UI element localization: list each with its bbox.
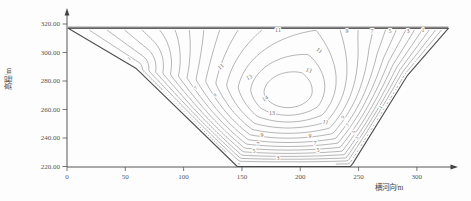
contour-label: 5	[253, 148, 256, 154]
y-tick-label: 260.00	[41, 106, 61, 114]
y-tick-label: 280.00	[41, 77, 61, 85]
x-tick-label: 300	[412, 173, 423, 181]
x-tick-label: 200	[295, 173, 306, 181]
contour-label: 3	[277, 155, 280, 161]
x-tick-label: 50	[122, 173, 130, 181]
contour-label: 7	[371, 28, 374, 34]
contour-label: 7	[314, 140, 317, 146]
contour-label: 3	[407, 28, 410, 34]
contour-figure: 050100150200250300320.00300.00280.00260.…	[0, 0, 471, 201]
contour-label: 9	[261, 132, 264, 138]
x-tick-label: 100	[178, 173, 189, 181]
x-tick-label: 250	[353, 173, 364, 181]
contour-label: 11	[322, 119, 329, 126]
contour-label: 9	[309, 133, 312, 139]
x-tick-label: 150	[237, 173, 248, 181]
y-axis-title: 高程/m	[3, 68, 13, 90]
contour-label: 9	[346, 28, 349, 34]
contour-label: 7	[257, 141, 260, 147]
y-tick-label: 320.00	[41, 20, 61, 28]
contour-label: 1	[422, 27, 425, 33]
contour-label: 5	[389, 28, 392, 34]
y-tick-label: 240.00	[41, 134, 61, 142]
contour-label: 5	[317, 147, 320, 153]
x-tick-label: 0	[65, 173, 69, 181]
y-tick-label: 300.00	[41, 49, 61, 57]
contour-chart: 050100150200250300320.00300.00280.00260.…	[0, 0, 471, 201]
y-tick-label: 220.00	[41, 163, 61, 171]
x-axis-title: 横河向/m	[375, 182, 404, 192]
contour-label: 11	[275, 27, 281, 33]
contour-label: 13	[269, 110, 275, 116]
